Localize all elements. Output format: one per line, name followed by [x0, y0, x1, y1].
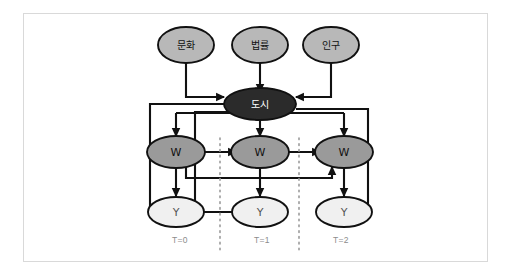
- time-label-layer: T=0 T=1 T=2: [172, 235, 349, 245]
- node-law[interactable]: 법률: [232, 27, 288, 63]
- edge-culture-to-city: [186, 63, 224, 97]
- node-city[interactable]: 도시: [224, 88, 296, 120]
- culture-label: 문화: [177, 40, 195, 51]
- y2-label: Y: [340, 206, 348, 219]
- time-label-t0: T=0: [172, 235, 188, 245]
- node-culture[interactable]: 문화: [158, 27, 214, 63]
- node-w1[interactable]: W: [231, 136, 289, 168]
- time-label-t1: T=1: [254, 235, 270, 245]
- node-y1[interactable]: Y: [232, 197, 288, 227]
- causal-diagram: 문화 법률 인구 도시 W W: [0, 0, 516, 277]
- w0-label: W: [171, 146, 182, 159]
- w2-label: W: [339, 146, 350, 159]
- time-label-t2: T=2: [333, 235, 349, 245]
- figure-root: 문화 법률 인구 도시 W W: [0, 0, 516, 277]
- node-y2[interactable]: Y: [316, 197, 372, 227]
- law-label: 법률: [251, 40, 269, 51]
- population-label: 인구: [322, 40, 340, 51]
- node-y0[interactable]: Y: [148, 197, 204, 227]
- city-label: 도시: [251, 99, 269, 110]
- node-w0[interactable]: W: [147, 136, 205, 168]
- y0-label: Y: [172, 206, 180, 219]
- edge-population-to-city: [296, 63, 331, 97]
- y1-label: Y: [256, 206, 264, 219]
- node-population[interactable]: 인구: [303, 27, 359, 63]
- node-w2[interactable]: W: [315, 136, 373, 168]
- w1-label: W: [255, 146, 266, 159]
